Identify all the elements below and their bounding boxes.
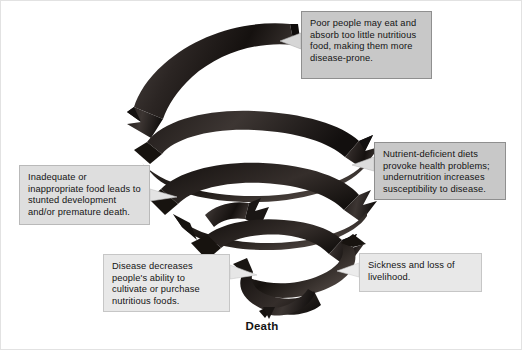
callout-poor-people: Poor people may eat and absorb too littl…: [301, 11, 432, 79]
figure-canvas: Poor people may eat and absorb too littl…: [0, 0, 522, 350]
callout-disease-decreases-text: Disease decreases people's ability to cu…: [112, 261, 222, 307]
callout-inadequate-food: Inadequate or inappropriate food leads t…: [19, 165, 150, 225]
spiral-turn-2: [134, 111, 379, 169]
callout-inadequate-food-text: Inadequate or inappropriate food leads t…: [28, 172, 142, 218]
callout-nutrient-deficient-text: Nutrient-deficient diets provoke health …: [383, 149, 498, 195]
callout-poor-people-text: Poor people may eat and absorb too littl…: [310, 18, 424, 64]
callout-sickness-loss-text: Sickness and loss of livelihood.: [368, 260, 474, 283]
callout-disease-decreases: Disease decreases people's ability to cu…: [103, 254, 230, 312]
callout-sickness-loss: Sickness and loss of livelihood.: [359, 253, 482, 292]
death-label: Death: [1, 320, 522, 332]
callout-nutrient-deficient: Nutrient-deficient diets provoke health …: [374, 142, 506, 200]
